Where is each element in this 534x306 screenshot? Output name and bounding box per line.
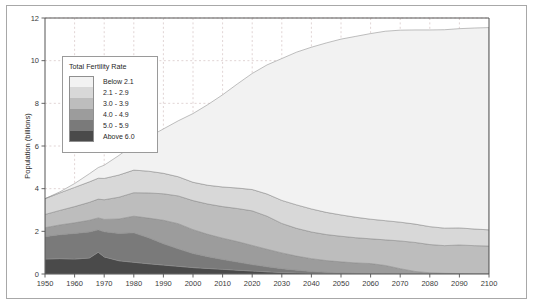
x-tick-label: 1990: [155, 279, 172, 288]
x-tick-label: 2030: [273, 279, 290, 288]
y-tick-label: 8: [35, 99, 39, 108]
legend-swatch: [69, 87, 94, 98]
legend-item-label: Below 2.1: [103, 78, 134, 85]
legend-item-label: 2.1 - 2.9: [103, 89, 129, 96]
legend-item: Above 6.0: [69, 131, 151, 142]
y-tick-label: 0: [35, 270, 39, 279]
x-tick-label: 2080: [421, 279, 438, 288]
legend-item: 4.0 - 4.9: [69, 109, 151, 120]
plot-area-wrapper: 1950196019701980199020002010202020302040…: [0, 0, 534, 306]
x-tick-label: 2090: [451, 279, 468, 288]
y-tick-label: 6: [35, 142, 39, 151]
x-tick-label: 2070: [392, 279, 409, 288]
x-axis-ticks: [45, 274, 489, 278]
x-tick-label: 2040: [303, 279, 320, 288]
x-tick-label: 2100: [481, 279, 498, 288]
x-tick-label: 1960: [66, 279, 83, 288]
legend: Total Fertility Rate Below 2.12.1 - 2.93…: [62, 56, 158, 153]
legend-swatch: [69, 76, 94, 87]
x-tick-label: 2020: [244, 279, 261, 288]
x-tick-label: 1970: [96, 279, 113, 288]
legend-title: Total Fertility Rate: [69, 62, 151, 71]
x-tick-label: 2050: [333, 279, 350, 288]
legend-item: 5.0 - 5.9: [69, 120, 151, 131]
y-axis-ticks: [42, 18, 46, 274]
legend-swatch: [69, 98, 94, 109]
legend-swatch: [69, 131, 94, 142]
x-axis-tick-labels: 1950196019701980199020002010202020302040…: [37, 279, 498, 288]
y-tick-label: 4: [35, 184, 39, 193]
legend-item-label: 4.0 - 4.9: [103, 111, 129, 118]
x-tick-label: 2060: [362, 279, 379, 288]
x-tick-label: 2000: [185, 279, 202, 288]
y-tick-label: 12: [31, 14, 39, 23]
x-tick-label: 1950: [37, 279, 54, 288]
chart-figure: 1950196019701980199020002010202020302040…: [0, 0, 534, 306]
y-tick-label: 10: [31, 56, 39, 65]
legend-swatch: [69, 109, 94, 120]
legend-item-label: Above 6.0: [103, 133, 135, 140]
stacked-area-chart: 1950196019701980199020002010202020302040…: [0, 0, 534, 306]
legend-item: Below 2.1: [69, 76, 151, 87]
legend-item: 3.0 - 3.9: [69, 98, 151, 109]
legend-rows: Below 2.12.1 - 2.93.0 - 3.94.0 - 4.95.0 …: [69, 76, 151, 142]
x-tick-label: 1980: [125, 279, 142, 288]
legend-item-label: 5.0 - 5.9: [103, 122, 129, 129]
y-tick-label: 2: [35, 227, 39, 236]
y-axis-title: Population (billions): [23, 113, 32, 179]
legend-swatch: [69, 120, 94, 131]
x-tick-label: 2010: [214, 279, 231, 288]
legend-item-label: 3.0 - 3.9: [103, 100, 129, 107]
legend-item: 2.1 - 2.9: [69, 87, 151, 98]
